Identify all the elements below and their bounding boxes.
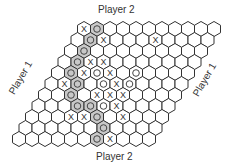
x-piece-icon: X bbox=[120, 112, 126, 122]
hex-cell[interactable]: X bbox=[104, 131, 117, 146]
hex-cell[interactable] bbox=[65, 131, 78, 146]
player-2-top-label: Player 2 bbox=[98, 4, 135, 15]
x-piece-icon: X bbox=[120, 90, 126, 100]
hex-cell[interactable] bbox=[13, 131, 26, 146]
hex-cell[interactable] bbox=[52, 131, 65, 146]
x-piece-icon: X bbox=[107, 68, 113, 78]
x-piece-icon: X bbox=[68, 112, 74, 122]
hex-cell[interactable] bbox=[130, 131, 143, 146]
x-piece-icon: X bbox=[100, 57, 106, 67]
x-piece-icon: X bbox=[61, 79, 67, 89]
hex-cell[interactable] bbox=[91, 131, 104, 146]
x-piece-icon: X bbox=[113, 79, 119, 89]
hex-cell[interactable] bbox=[39, 131, 52, 146]
x-piece-icon: X bbox=[100, 35, 106, 45]
x-piece-icon: X bbox=[81, 112, 87, 122]
hex-cell[interactable] bbox=[143, 131, 156, 146]
player-2-bottom-label: Player 2 bbox=[96, 151, 133, 162]
x-piece-icon: X bbox=[113, 101, 119, 111]
x-piece-icon: X bbox=[87, 57, 93, 67]
hex-cell[interactable] bbox=[78, 131, 91, 146]
x-piece-icon: X bbox=[107, 90, 113, 100]
hex-cell[interactable] bbox=[117, 131, 130, 146]
x-piece-icon: X bbox=[94, 90, 100, 100]
x-piece-icon: X bbox=[107, 134, 113, 144]
hex-cell[interactable] bbox=[26, 131, 39, 146]
x-piece-icon: X bbox=[81, 68, 87, 78]
x-piece-icon: X bbox=[81, 24, 87, 34]
x-piece-icon: X bbox=[152, 35, 158, 45]
